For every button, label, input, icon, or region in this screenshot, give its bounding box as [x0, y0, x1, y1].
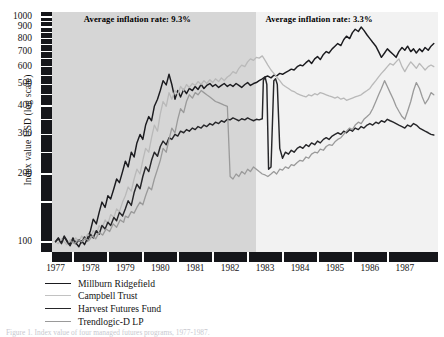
x-tick-mark	[38, 252, 40, 262]
y-tick-mark	[41, 241, 52, 243]
plot-area: Average inflation rate: 9.3% Average inf…	[52, 12, 438, 252]
y-tick-label: 1000	[13, 12, 32, 22]
x-tick-mark	[352, 252, 354, 262]
y-minor-tick-mark	[41, 58, 52, 59]
y-tick-label: 700	[18, 47, 32, 57]
y-minor-tick-mark	[41, 21, 52, 22]
y-tick-mark	[41, 16, 52, 18]
legend-item-label: Millburn Ridgefield	[78, 278, 155, 289]
x-tick-mark	[317, 252, 319, 262]
chart-legend: Millburn RidgefieldCampbell TrustHarvest…	[45, 277, 295, 327]
x-tick-mark	[107, 252, 109, 262]
x-tick-mark	[247, 252, 249, 262]
x-tick-mark	[72, 252, 74, 262]
x-axis-tick-labels: 1977197819791980198119821983198419851986…	[52, 263, 438, 277]
y-tick-label: 400	[18, 101, 32, 111]
legend-item[interactable]: Campbell Trust	[45, 290, 295, 303]
y-minor-tick-mark	[41, 32, 52, 33]
y-tick-mark	[41, 51, 52, 53]
y-tick-mark	[41, 26, 52, 28]
x-tick-mark	[387, 252, 389, 262]
x-tick-mark	[142, 252, 144, 262]
y-axis-bar	[41, 12, 52, 252]
legend-line-icon	[45, 295, 71, 296]
legend-item-label: Campbell Trust	[78, 290, 137, 301]
figure-caption: Figure 1. Index value of four managed fu…	[6, 329, 438, 337]
series-line	[55, 77, 433, 246]
legend-line-icon	[45, 321, 71, 322]
y-tick-mark	[41, 105, 52, 107]
y-tick-label: 200	[18, 169, 32, 179]
series-lines	[52, 12, 438, 252]
y-minor-tick-mark	[41, 201, 52, 202]
legend-item[interactable]: Harvest Futures Fund	[45, 302, 295, 315]
legend-item[interactable]: Trendlogic-D LP	[45, 315, 295, 328]
y-tick-mark	[41, 38, 52, 40]
x-tick-mark	[177, 252, 179, 262]
y-tick-label: 300	[18, 129, 32, 139]
x-tick-mark	[212, 252, 214, 262]
y-tick-label: 900	[18, 22, 32, 32]
y-minor-tick-mark	[41, 119, 52, 120]
y-tick-label: 500	[18, 79, 32, 89]
legend-item-label: Harvest Futures Fund	[78, 303, 161, 314]
y-tick-label: 600	[18, 62, 32, 72]
y-tick-label: 100	[18, 237, 32, 247]
y-tick-mark	[41, 173, 52, 175]
legend-line-icon	[45, 283, 71, 284]
annotation-high-inflation: Average inflation rate: 9.3%	[84, 14, 191, 24]
legend-item[interactable]: Millburn Ridgefield	[45, 277, 295, 290]
y-minor-tick-mark	[41, 152, 52, 153]
series-line	[55, 27, 433, 247]
y-tick-mark	[41, 134, 52, 136]
y-tick-mark	[41, 66, 52, 68]
annotation-low-inflation: Average inflation rate: 3.3%	[265, 14, 372, 24]
legend-line-icon	[45, 308, 71, 309]
y-minor-tick-mark	[41, 75, 52, 76]
legend-item-label: Trendlogic-D LP	[78, 316, 143, 327]
y-minor-tick-mark	[41, 44, 52, 45]
y-tick-label: 800	[18, 34, 32, 44]
x-tick-mark	[282, 252, 284, 262]
y-tick-mark	[41, 84, 52, 86]
y-minor-tick-mark	[41, 94, 52, 95]
x-tick-label: 1987	[385, 263, 425, 274]
x-axis-bar	[52, 252, 438, 262]
